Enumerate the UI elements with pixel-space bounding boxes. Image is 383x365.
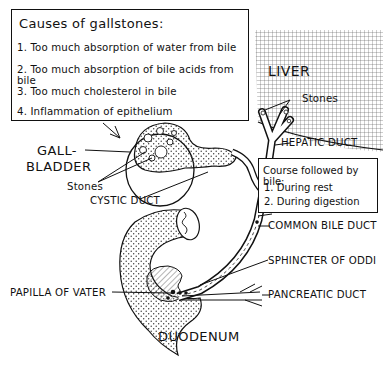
cause-item: 4. Inflammation of epithelium bbox=[17, 106, 173, 117]
label-stones-liver: Stones bbox=[302, 94, 338, 104]
label-sphincter-of-oddi: SPHINCTER OF ODDI bbox=[268, 256, 376, 266]
label-hepatic-duct: HEPATIC DUCT bbox=[281, 138, 357, 148]
label-stones-gallbladder: Stones bbox=[67, 182, 103, 192]
course-item: 1. During rest bbox=[264, 182, 333, 193]
label-papilla-of-vater: PAPILLA OF VATER bbox=[10, 288, 106, 298]
label-gallbladder-line2: BLADDER bbox=[26, 160, 91, 173]
label-common-bile-duct: COMMON BILE DUCT bbox=[268, 221, 377, 231]
course-box: Course followed by bile: 1. During rest … bbox=[258, 158, 378, 213]
label-gallbladder-line1: GALL- bbox=[37, 144, 77, 157]
course-item: 2. During digestion bbox=[264, 196, 360, 207]
label-pancreatic-duct: PANCREATIC DUCT bbox=[268, 290, 366, 300]
causes-title: Causes of gallstones: bbox=[19, 16, 164, 31]
label-duodenum: DUODENUM bbox=[158, 330, 240, 343]
causes-box: Causes of gallstones: 1. Too much absorp… bbox=[11, 9, 249, 121]
label-liver: LIVER bbox=[268, 64, 310, 78]
cause-item: 2. Too much absorption of bile acids fro… bbox=[17, 64, 248, 86]
label-cystic-duct: CYSTIC DUCT bbox=[90, 196, 160, 206]
gallbladder bbox=[126, 123, 236, 206]
cause-item: 3. Too much cholesterol in bile bbox=[17, 86, 177, 97]
cause-item: 1. Too much absorption of water from bil… bbox=[17, 42, 236, 53]
